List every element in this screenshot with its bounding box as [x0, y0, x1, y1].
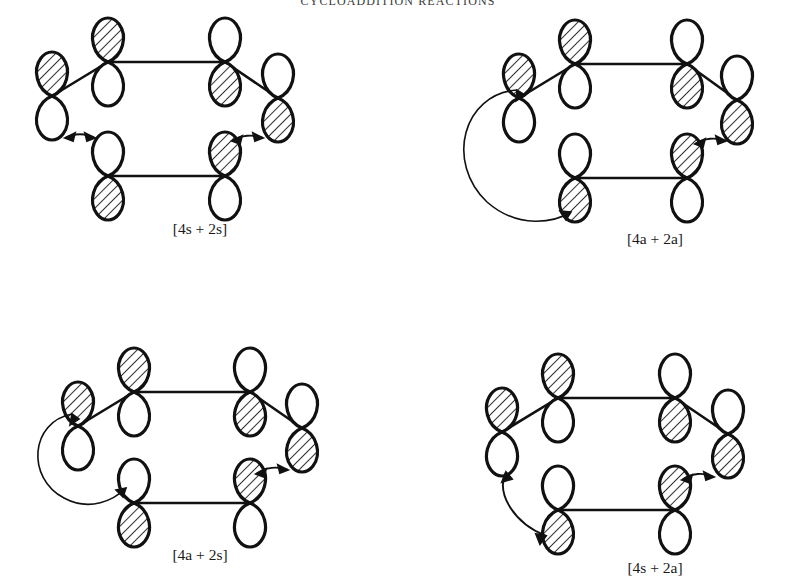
orbital-diene-4	[287, 384, 318, 472]
caption-4a-2a: [4a + 2a]	[545, 230, 765, 248]
running-head: CYCLOADDITION REACTIONS	[0, 0, 796, 9]
interaction-arrow-left-curved	[502, 472, 546, 544]
orbital-diagram-4s-2s	[10, 14, 310, 219]
orbital-diene-4	[713, 390, 744, 478]
caption-4s-2a: [4s + 2a]	[545, 559, 765, 577]
interaction-arrow-right	[232, 133, 263, 144]
figure-page: CYCLOADDITION REACTIONS	[0, 0, 796, 588]
orbital-diene-1	[37, 52, 68, 140]
orbital-diene-4	[722, 56, 753, 144]
caption-4a-2s: [4a + 2s]	[90, 546, 310, 564]
interaction-arrow-left	[65, 133, 95, 141]
orbital-diene-4	[263, 54, 294, 142]
orbital-diene-1	[63, 382, 94, 470]
orbital-diagram-4a-2a	[415, 22, 745, 227]
orbital-diagram-4a-2s	[22, 348, 332, 548]
orbital-diagram-4s-2a	[440, 360, 760, 560]
orbital-diene-1	[487, 388, 518, 476]
caption-4s-2s: [4s + 2s]	[90, 220, 310, 238]
interaction-arrow-right	[695, 136, 726, 147]
